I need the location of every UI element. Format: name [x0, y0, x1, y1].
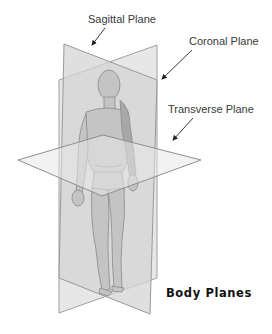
- transverse-plane: [18, 135, 201, 196]
- planes-illustration: [0, 0, 272, 334]
- transverse-arrow-icon: [173, 118, 193, 140]
- sagittal-plane-label: Sagittal Plane: [88, 14, 156, 25]
- diagram-title: Body Planes: [166, 288, 252, 300]
- coronal-arrow-icon: [162, 50, 192, 79]
- sagittal-arrow-icon: [92, 28, 105, 45]
- coronal-plane-label: Coronal Plane: [189, 36, 259, 47]
- transverse-plane-label: Transverse Plane: [168, 104, 254, 115]
- body-planes-diagram: Sagittal Plane Coronal Plane Transverse …: [0, 0, 272, 334]
